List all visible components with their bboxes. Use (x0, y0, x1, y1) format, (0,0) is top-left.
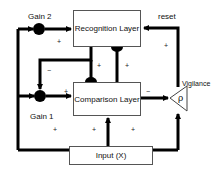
gain1-label: Gain 1 (30, 112, 54, 121)
gain2-label: Gain 2 (28, 12, 52, 21)
sign-gain1-comparison: + (64, 88, 68, 95)
recognition-layer-box: Recognition Layer (73, 10, 141, 47)
comparison-layer-box: Comparison Layer (73, 82, 141, 116)
gain1-node (34, 90, 46, 102)
sign-gain2-recognition: + (57, 38, 61, 45)
sign-recognition-comparison: + (97, 62, 101, 69)
sign-comparison-vigilance: − (146, 88, 150, 95)
comparison-layer-label: Comparison Layer (74, 95, 139, 104)
gain2-node (33, 23, 45, 35)
recognition-layer-label: Recognition Layer (75, 24, 139, 33)
sign-comparison-recognition: + (125, 62, 129, 69)
sign-reset-path: + (164, 42, 168, 49)
input-label: Input (X) (96, 151, 127, 160)
reset-arrow (144, 28, 178, 87)
sign-input-comparison: + (92, 126, 96, 133)
sign-recognition-gain1: − (47, 67, 51, 74)
sign-input-gain1: + (53, 126, 57, 133)
reset-label: reset (158, 12, 176, 21)
sign-input-vigilance: + (131, 126, 135, 133)
input-box: Input (X) (69, 146, 153, 165)
vigilance-label: Vigilance (182, 80, 210, 87)
rho-symbol: ρ (178, 93, 183, 103)
